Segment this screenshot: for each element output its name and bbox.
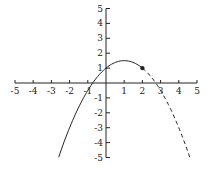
y-tick-label: 2 bbox=[97, 48, 103, 58]
x-tick-label: -3 bbox=[47, 86, 56, 96]
axes bbox=[15, 9, 197, 158]
x-tick-label: 4 bbox=[176, 86, 182, 96]
y-tick-label: 5 bbox=[97, 4, 103, 14]
curve-series bbox=[59, 61, 190, 158]
x-tick-label: 5 bbox=[194, 86, 200, 96]
y-tick-label: -1 bbox=[94, 93, 103, 103]
x-tick-label: 1 bbox=[121, 86, 127, 96]
y-tick-label: -4 bbox=[94, 138, 103, 148]
y-tick-label: -5 bbox=[94, 153, 103, 163]
y-tick-label: 3 bbox=[97, 33, 103, 43]
parabola-chart: -5-4-3-2-11234554321-1-2-3-4-5 bbox=[0, 0, 212, 172]
dashed-curve bbox=[142, 68, 189, 157]
x-tick-label: 2 bbox=[140, 86, 146, 96]
y-tick-label: 4 bbox=[97, 18, 103, 28]
x-tick-label: -4 bbox=[29, 86, 38, 96]
marked-points bbox=[140, 66, 144, 70]
x-tick-label: -5 bbox=[11, 86, 20, 96]
y-tick-label: -3 bbox=[94, 123, 103, 133]
marked-point bbox=[140, 66, 144, 70]
y-tick-label: -2 bbox=[94, 108, 103, 118]
x-tick-label: -2 bbox=[65, 86, 74, 96]
